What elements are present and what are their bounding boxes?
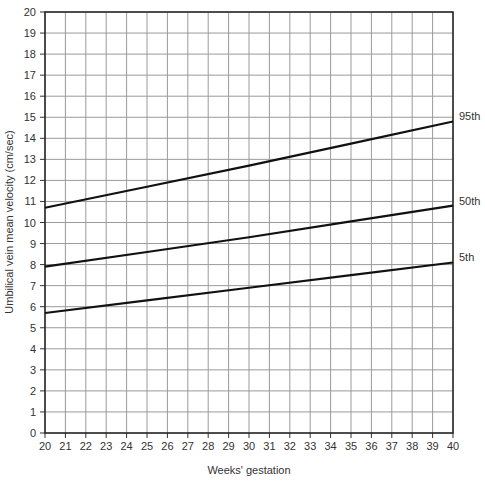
x-tick-label: 20 [39, 440, 51, 452]
x-tick-label: 35 [345, 440, 357, 452]
series-label-50th: 50th [459, 195, 480, 207]
y-tick-label: 12 [24, 174, 36, 186]
x-tick-label: 39 [426, 440, 438, 452]
x-tick-label: 36 [365, 440, 377, 452]
y-tick-label: 4 [30, 343, 36, 355]
x-tick-label: 22 [80, 440, 92, 452]
grid [45, 12, 453, 433]
y-tick-label: 1 [30, 406, 36, 418]
y-tick-label: 19 [24, 27, 36, 39]
series-lines: 95th50th5th [45, 110, 480, 313]
x-tick-label: 30 [243, 440, 255, 452]
y-tick-label: 17 [24, 69, 36, 81]
y-tick-label: 16 [24, 90, 36, 102]
x-tick-label: 26 [161, 440, 173, 452]
x-tick-label: 21 [59, 440, 71, 452]
y-tick-label: 3 [30, 364, 36, 376]
x-tick-label: 28 [202, 440, 214, 452]
x-tick-label: 32 [284, 440, 296, 452]
y-tick-label: 6 [30, 301, 36, 313]
series-label-5th: 5th [459, 251, 474, 263]
x-tick-label: 29 [222, 440, 234, 452]
y-tick-label: 11 [25, 195, 36, 207]
y-tick-label: 15 [24, 111, 36, 123]
y-tick-label: 18 [24, 48, 36, 60]
x-tick-label: 38 [406, 440, 418, 452]
chart: 2021222324252627282930313233343536373839… [0, 0, 485, 481]
x-tick-label: 40 [447, 440, 459, 452]
y-tick-label: 8 [30, 259, 36, 271]
y-tick-label: 5 [30, 322, 36, 334]
y-tick-label: 13 [24, 153, 36, 165]
x-tick-label: 34 [324, 440, 336, 452]
y-tick-label: 10 [24, 217, 36, 229]
x-tick-label: 27 [182, 440, 194, 452]
series-label-95th: 95th [459, 110, 480, 122]
y-tick-label: 2 [30, 385, 36, 397]
y-tick-label: 20 [24, 6, 36, 18]
y-axis-label: Umbilical vein mean velocity (cm/sec) [3, 130, 15, 313]
x-tick-label: 24 [120, 440, 132, 452]
x-tick-label: 25 [141, 440, 153, 452]
x-tick-label: 31 [263, 440, 275, 452]
x-tick-label: 37 [386, 440, 398, 452]
y-tick-label: 7 [30, 280, 36, 292]
x-axis-label: Weeks' gestation [207, 464, 290, 476]
y-tick-label: 0 [30, 427, 36, 439]
y-tick-label: 14 [24, 132, 36, 144]
y-tick-label: 9 [30, 238, 36, 250]
x-tick-label: 23 [100, 440, 112, 452]
axes: 2021222324252627282930313233343536373839… [24, 6, 459, 452]
x-tick-label: 33 [304, 440, 316, 452]
